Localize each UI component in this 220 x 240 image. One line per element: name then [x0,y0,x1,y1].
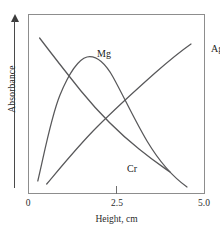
x-axis-tick-2point5 [116,186,117,194]
series-label-ag: Ag [211,43,220,54]
x-axis-tick-label-5point0: 5.0 [192,198,216,208]
curves-svg [29,15,206,195]
chart-figure: Absorbance Mg Ag Cr 0 2.5 5.0 Height, cm [0,0,220,240]
series-label-mg: Mg [97,48,111,59]
y-axis-title: Absorbance [7,19,17,159]
y-axis: Absorbance [0,14,28,194]
x-axis-tick-label-2point5: 2.5 [104,198,130,208]
x-axis-title: Height, cm [28,214,205,224]
x-axis-tick-label-0: 0 [19,198,37,208]
plot-area: Mg Ag Cr [28,14,205,194]
series-label-cr: Cr [127,163,137,174]
curve-ag [47,44,191,184]
